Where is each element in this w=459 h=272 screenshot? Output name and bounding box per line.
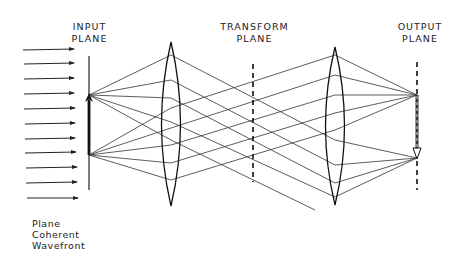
incident-arrows [23,49,78,198]
rays [89,55,417,210]
input-plane [85,56,93,190]
output-plane [413,62,421,190]
optical-diagram [0,0,459,272]
lens-1 [162,42,181,206]
